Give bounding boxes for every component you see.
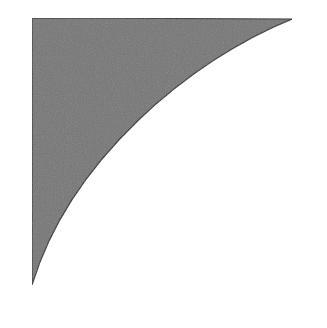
diagram-canvas [0, 0, 327, 328]
